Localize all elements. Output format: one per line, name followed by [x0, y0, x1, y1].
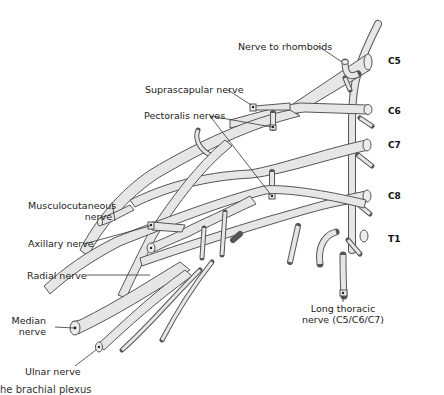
label-long-thoracic-nerve: Long thoracic nerve (C5/C6/C7)	[300, 303, 386, 325]
root-label-c8: C8	[388, 191, 401, 201]
label-median-nerve: Median nerve	[8, 315, 46, 337]
figure-caption: he brachial plexus	[0, 384, 92, 395]
label-musculocutaneous-nerve: Musculocutaneous nerve	[28, 200, 112, 222]
label-suprascapular-nerve: Suprascapular nerve	[145, 84, 243, 95]
label-median-line1: Median	[8, 315, 46, 326]
label-median-line2: nerve	[8, 326, 46, 337]
label-radial-nerve: Radial nerve	[27, 270, 87, 281]
label-axillary-nerve: Axillary nerve	[28, 238, 94, 249]
label-long-thoracic-line2: nerve (C5/C6/C7)	[300, 314, 386, 325]
label-musculocutaneous-line1: Musculocutaneous	[28, 200, 112, 211]
root-label-c7: C7	[388, 140, 401, 150]
root-label-t1: T1	[388, 234, 400, 244]
label-musculocutaneous-line2: nerve	[28, 211, 112, 222]
root-label-c6: C6	[388, 106, 401, 116]
medial-cord	[70, 262, 212, 352]
root-label-c5: C5	[388, 56, 401, 66]
label-nerve-to-rhomboids: Nerve to rhomboids	[238, 41, 332, 52]
label-long-thoracic-line1: Long thoracic	[300, 303, 386, 314]
label-pectoralis-nerves: Pectoralis nerves	[144, 110, 225, 121]
label-ulnar-nerve: Ulnar nerve	[25, 366, 81, 377]
